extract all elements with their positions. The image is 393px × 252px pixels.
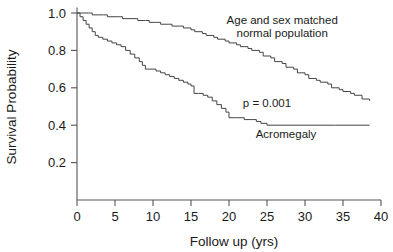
annotation-acromegaly-label: Acromegaly xyxy=(256,128,317,140)
x-axis-title: Follow up (yrs) xyxy=(190,234,279,249)
y-tick-label-1.0: 1.0 xyxy=(48,6,66,21)
x-tick-label-40: 40 xyxy=(374,209,388,224)
annotation-normal-label-line1: Age and sex matched xyxy=(227,14,338,26)
y-axis-ticks xyxy=(71,13,77,163)
x-tick-label-15: 15 xyxy=(184,209,198,224)
x-axis-tick-labels: 0510152025303540 xyxy=(73,209,388,224)
x-tick-label-30: 30 xyxy=(298,209,312,224)
y-tick-label-0.8: 0.8 xyxy=(48,43,66,58)
annotation-normal-label-line2: normal population xyxy=(236,27,327,39)
chart-annotations: p = 0.001Age and sex matchednormal popul… xyxy=(227,14,338,140)
x-tick-label-35: 35 xyxy=(336,209,350,224)
annotation-pvalue: p = 0.001 xyxy=(243,97,291,109)
y-tick-label-0.4: 0.4 xyxy=(48,118,66,133)
x-axis-ticks xyxy=(77,200,381,206)
x-tick-label-25: 25 xyxy=(260,209,274,224)
y-tick-label-0.2: 0.2 xyxy=(48,155,66,170)
x-tick-label-10: 10 xyxy=(146,209,160,224)
survival-curve-figure: 0.20.40.60.81.0 0510152025303540 p = 0.0… xyxy=(0,0,393,252)
y-tick-label-0.6: 0.6 xyxy=(48,80,66,95)
x-tick-label-20: 20 xyxy=(222,209,236,224)
x-tick-label-5: 5 xyxy=(111,209,118,224)
y-axis-tick-labels: 0.20.40.60.81.0 xyxy=(48,6,66,171)
y-axis-title: Survival Probability xyxy=(4,49,19,164)
x-tick-label-0: 0 xyxy=(73,209,80,224)
chart-canvas: 0.20.40.60.81.0 0510152025303540 p = 0.0… xyxy=(0,0,393,252)
